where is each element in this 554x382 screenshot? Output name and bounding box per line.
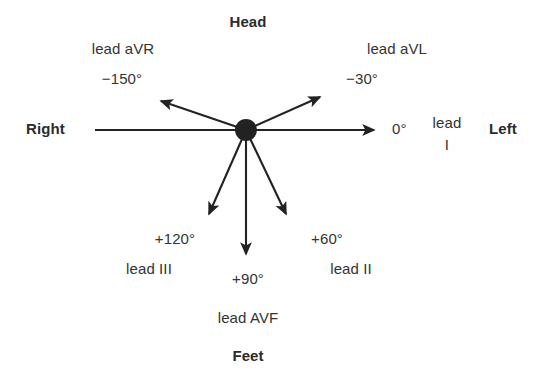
axis-arrow-lead-avr <box>161 101 246 130</box>
angle-label-lead-iii: +120° <box>155 231 195 248</box>
lead-label-avl: lead aVL <box>367 41 427 58</box>
lead-label-avr: lead aVR <box>92 41 155 58</box>
lead-label-i-line2: I <box>445 137 449 154</box>
orientation-label-right: Right <box>26 121 65 138</box>
orientation-label-left: Left <box>489 121 517 138</box>
orientation-label-head: Head <box>229 14 266 31</box>
axis-arrow-lead-ii <box>246 130 286 214</box>
angle-label-lead-avf: +90° <box>232 271 264 288</box>
angle-label-avl: −30° <box>346 71 378 88</box>
ecg-hexaxial-diagram: Head Feet Right Left lead aVR −150° lead… <box>0 0 554 382</box>
angle-label-avr: −150° <box>102 71 142 88</box>
lead-label-ii: lead II <box>330 261 372 278</box>
lead-label-i-line1: lead <box>433 115 462 132</box>
angle-label-lead-i: 0° <box>392 121 407 138</box>
orientation-label-feet: Feet <box>232 348 263 365</box>
axis-arrow-lead-avl <box>246 97 320 130</box>
angle-label-lead-ii: +60° <box>311 231 343 248</box>
origin-dot <box>235 119 257 141</box>
lead-label-avf: lead AVF <box>218 310 279 327</box>
lead-label-iii: lead III <box>126 261 172 278</box>
axis-arrow-lead-iii <box>209 130 246 214</box>
